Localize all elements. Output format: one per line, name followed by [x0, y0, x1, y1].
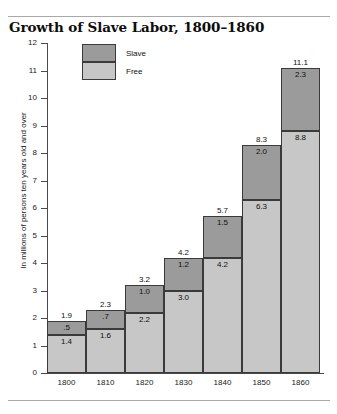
- legend-swatch-slave: [82, 44, 116, 62]
- legend-label-free: Free: [126, 67, 142, 76]
- y-axis-tick-label: 0: [15, 369, 37, 377]
- y-axis-tick-label: 5: [15, 232, 37, 240]
- bar-segment-slave: .5: [47, 321, 86, 335]
- y-axis-tick-label: 6: [15, 204, 37, 212]
- y-axis-tick-label: 7: [15, 177, 37, 185]
- x-axis-tick-label: 1840: [203, 378, 242, 387]
- bar-value-label-slave: 1.2: [165, 260, 202, 269]
- bar-value-label-slave: 2.3: [282, 70, 319, 79]
- bar-value-label-free: 1.4: [48, 337, 85, 346]
- bar-segment-free: 3.0: [164, 291, 203, 374]
- bar-segment-slave: 1.2: [164, 258, 203, 291]
- bar-value-label-slave: 1.0: [126, 287, 163, 296]
- figure: Growth of Slave Labor, 1800–1860 In mill…: [0, 0, 337, 414]
- bottom-divider-rule: [8, 400, 330, 401]
- bar-value-label-slave: .7: [87, 312, 124, 321]
- bar-group: 4.21.55.7: [203, 216, 242, 373]
- bar-total-label: 2.3: [86, 300, 125, 309]
- bar-total-label: 5.7: [203, 206, 242, 215]
- y-axis-tick-label: 4: [15, 259, 37, 267]
- y-axis-tick-label: 11: [15, 67, 37, 75]
- bar-value-label-free: 4.2: [204, 260, 241, 269]
- bar-segment-free: 6.3: [242, 200, 281, 373]
- bar-value-label-free: 6.3: [243, 202, 280, 211]
- bar-group: 3.01.24.2: [164, 258, 203, 374]
- y-axis-tick-label: 2: [15, 314, 37, 322]
- x-axis-line: [47, 373, 324, 374]
- legend-swatch-free: [82, 62, 116, 80]
- bar-segment-slave: 2.3: [281, 68, 320, 131]
- bar-segment-slave: 1.5: [203, 216, 242, 257]
- legend-label-slave: Slave: [126, 49, 146, 58]
- bar-segment-free: 2.2: [125, 313, 164, 374]
- bar-value-label-slave: 1.5: [204, 218, 241, 227]
- bar-value-label-slave: 2.0: [243, 147, 280, 156]
- plot-area: 1.4.51.91.6.72.32.21.03.23.01.24.24.21.5…: [47, 43, 323, 373]
- y-axis-tick-label: 1: [15, 342, 37, 350]
- bar-value-label-slave: .5: [48, 323, 85, 332]
- bar-segment-free: 4.2: [203, 258, 242, 374]
- bar-value-label-free: 8.8: [282, 133, 319, 142]
- y-axis-tick-label: 9: [15, 122, 37, 130]
- y-axis-tick-label: 10: [15, 94, 37, 102]
- bar-value-label-free: 1.6: [87, 331, 124, 340]
- bar-group: 1.6.72.3: [86, 310, 125, 373]
- bar-segment-free: 1.6: [86, 329, 125, 373]
- x-axis-tick-label: 1860: [281, 378, 320, 387]
- bar-segment-free: 1.4: [47, 335, 86, 374]
- bar-value-label-free: 2.2: [126, 315, 163, 324]
- chart-title: Growth of Slave Labor, 1800–1860: [9, 19, 264, 35]
- y-axis-tick-label: 8: [15, 149, 37, 157]
- top-divider-rule: [8, 16, 330, 17]
- y-axis-tick-label: 3: [15, 287, 37, 295]
- x-axis-tick-label: 1850: [242, 378, 281, 387]
- bar-total-label: 11.1: [281, 58, 320, 67]
- bar-segment-slave: 1.0: [125, 285, 164, 313]
- y-axis-tick: [41, 373, 47, 374]
- x-axis-tick-label: 1800: [47, 378, 86, 387]
- bar-segment-slave: .7: [86, 310, 125, 329]
- bar-total-label: 8.3: [242, 135, 281, 144]
- x-axis-tick-label: 1830: [164, 378, 203, 387]
- bar-group: 8.82.311.1: [281, 68, 320, 373]
- x-axis-tick-label: 1810: [86, 378, 125, 387]
- bar-total-label: 4.2: [164, 248, 203, 257]
- bar-group: 1.4.51.9: [47, 321, 86, 373]
- bar-total-label: 3.2: [125, 275, 164, 284]
- bar-group: 6.32.08.3: [242, 145, 281, 373]
- y-axis-tick-label: 12: [15, 39, 37, 47]
- bar-segment-slave: 2.0: [242, 145, 281, 200]
- x-axis-tick-label: 1820: [125, 378, 164, 387]
- bar-total-label: 1.9: [47, 311, 86, 320]
- bar-segment-free: 8.8: [281, 131, 320, 373]
- bar-group: 2.21.03.2: [125, 285, 164, 373]
- bar-value-label-free: 3.0: [165, 293, 202, 302]
